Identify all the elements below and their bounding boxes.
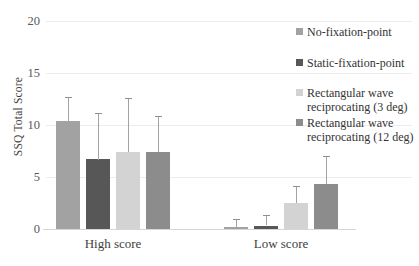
legend-item-label: Rectangular wave reciprocating (3 deg) bbox=[307, 86, 418, 114]
x-category-label: High score bbox=[53, 236, 173, 252]
legend-item-label: Static-fixation-point bbox=[307, 56, 404, 70]
legend-color-swatch bbox=[296, 28, 303, 35]
legend-color-swatch bbox=[296, 59, 303, 66]
legend-item-label: Rectangular wave reciprocating (12 deg) bbox=[307, 116, 418, 144]
legend-item-label: No-fixation-point bbox=[307, 25, 392, 39]
x-category-label: Low score bbox=[221, 236, 341, 252]
legend: No-fixation-pointStatic-fixation-pointRe… bbox=[296, 25, 418, 144]
legend-item: Rectangular wave reciprocating (12 deg) bbox=[296, 116, 418, 144]
ssq-bar-chart: SSQ Total Score 05101520 High scoreLow s… bbox=[0, 0, 419, 266]
legend-item: Rectangular wave reciprocating (3 deg) bbox=[296, 86, 418, 114]
legend-item: Static-fixation-point bbox=[296, 56, 418, 70]
legend-color-swatch bbox=[296, 119, 303, 126]
legend-color-swatch bbox=[296, 89, 303, 96]
legend-item: No-fixation-point bbox=[296, 25, 418, 39]
